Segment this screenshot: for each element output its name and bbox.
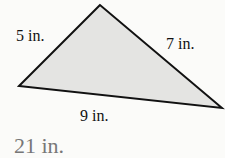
perimeter-answer: 21 in.: [14, 135, 64, 157]
triangle: [19, 5, 222, 108]
side-label-right: 7 in.: [166, 36, 194, 52]
side-label-left: 5 in.: [16, 28, 44, 44]
side-label-bottom: 9 in.: [80, 108, 108, 124]
